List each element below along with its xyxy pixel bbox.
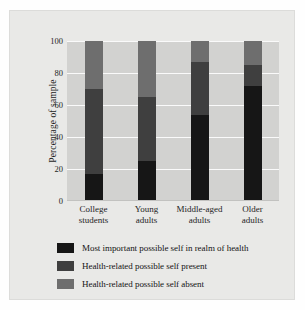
x-axis-label: Middle-agedadults bbox=[173, 204, 226, 225]
x-axis-line bbox=[67, 200, 279, 201]
y-axis-tick-label: 60 bbox=[55, 100, 64, 110]
bar-middle-aged-adults[interactable] bbox=[191, 41, 209, 201]
bar-segment bbox=[191, 62, 209, 115]
y-axis-tick-label: 80 bbox=[55, 68, 64, 78]
legend-item[interactable]: Health-related possible self present bbox=[57, 257, 287, 274]
x-axis-label: Collegestudents bbox=[67, 204, 120, 225]
bar-segment bbox=[244, 86, 262, 201]
chart-legend: Most important possible self in realm of… bbox=[57, 239, 287, 293]
bar-segment bbox=[138, 161, 156, 201]
legend-swatch bbox=[57, 261, 74, 271]
bar-segment bbox=[191, 41, 209, 62]
bar-young-adults[interactable] bbox=[138, 41, 156, 201]
y-axis-tick-label: 40 bbox=[55, 132, 64, 142]
bar-older-adults[interactable] bbox=[244, 41, 262, 201]
legend-item[interactable]: Health-related possible self absent bbox=[57, 275, 287, 292]
bar-segment bbox=[244, 41, 262, 65]
bar-segment bbox=[138, 41, 156, 97]
y-axis-label: Percentage of sample bbox=[48, 79, 58, 162]
x-axis-label: Youngadults bbox=[120, 204, 173, 225]
y-axis-tick-label: 100 bbox=[50, 36, 63, 46]
chart-plate: Percentage of sample 020406080100 Colleg… bbox=[9, 10, 295, 300]
bar-segment bbox=[85, 89, 103, 174]
y-axis-tick-label: 0 bbox=[59, 196, 63, 206]
bar-segment bbox=[85, 174, 103, 201]
bar-college-students[interactable] bbox=[85, 41, 103, 201]
legend-swatch bbox=[57, 279, 74, 289]
legend-label: Health-related possible self present bbox=[82, 261, 207, 271]
bar-segment bbox=[244, 65, 262, 86]
y-axis-tick-label: 20 bbox=[55, 164, 64, 174]
x-axis-label: Olderadults bbox=[226, 204, 279, 225]
bar-segment bbox=[85, 41, 103, 89]
plot-area: Percentage of sample 020406080100 bbox=[67, 41, 279, 201]
legend-item[interactable]: Most important possible self in realm of… bbox=[57, 239, 287, 256]
legend-swatch bbox=[57, 243, 74, 253]
bar-segment bbox=[138, 97, 156, 161]
chart-figure: Percentage of sample 020406080100 Colleg… bbox=[0, 0, 305, 310]
legend-label: Most important possible self in realm of… bbox=[82, 243, 248, 253]
bar-segment bbox=[191, 115, 209, 201]
legend-label: Health-related possible self absent bbox=[82, 279, 204, 289]
